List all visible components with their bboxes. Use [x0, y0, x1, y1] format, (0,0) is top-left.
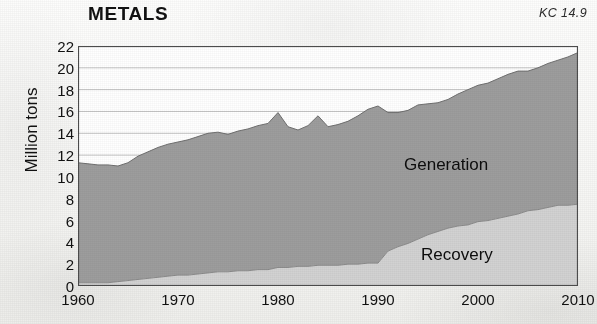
x-tick-label: 2010: [561, 291, 594, 308]
page-title: METALS: [88, 3, 168, 25]
y-tick-label: 2: [44, 256, 74, 273]
series-label-recovery: Recovery: [421, 245, 493, 265]
y-tick-label: 6: [44, 212, 74, 229]
y-axis-title: Million tons: [22, 50, 42, 210]
x-tick-label: 1970: [161, 291, 194, 308]
x-tick-label: 2000: [461, 291, 494, 308]
series-label-generation: Generation: [404, 155, 488, 175]
x-tick-label: 1980: [261, 291, 294, 308]
x-tick-label: 1990: [361, 291, 394, 308]
y-tick-label: 10: [44, 168, 74, 185]
y-tick-label: 14: [44, 125, 74, 142]
y-tick-label: 4: [44, 234, 74, 251]
y-tick-label: 12: [44, 147, 74, 164]
stacked-area-chart: [78, 46, 578, 286]
y-tick-label: 20: [44, 59, 74, 76]
y-tick-label: 18: [44, 81, 74, 98]
chart-figure: METALS KC 14.9 Million tons 024681012141…: [0, 0, 597, 324]
plot-area: [78, 46, 578, 286]
x-tick-label: 1960: [61, 291, 94, 308]
y-tick-label: 8: [44, 190, 74, 207]
y-tick-label: 22: [44, 38, 74, 55]
y-tick-label: 16: [44, 103, 74, 120]
y-axis-tick-labels: 0246810121416182022: [40, 46, 74, 286]
figure-code-annotation: KC 14.9: [539, 6, 587, 20]
